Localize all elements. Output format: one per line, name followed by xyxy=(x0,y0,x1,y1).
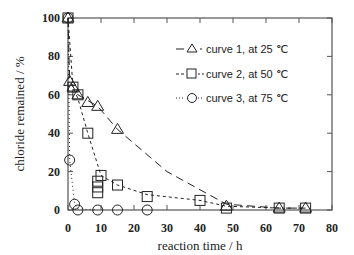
triangle-marker-icon xyxy=(187,44,197,52)
square-marker xyxy=(83,128,93,138)
square-marker xyxy=(93,182,103,192)
circle-marker xyxy=(65,155,75,165)
legend-item-curve-3: curve 3, at 75 ℃ xyxy=(176,92,288,104)
y-tick-label: 20 xyxy=(48,165,60,179)
series-3 xyxy=(63,13,152,215)
legend-item-curve-2: curve 2, at 50 ℃ xyxy=(176,68,288,80)
x-tick-labels: 01020304050607080 xyxy=(65,221,338,235)
y-tick-label: 80 xyxy=(48,49,60,63)
y-tick-label: 60 xyxy=(48,88,60,102)
y-tick-label: 40 xyxy=(48,126,60,140)
y-tick-label: 0 xyxy=(54,203,60,217)
legend-item-curve-1: curve 1, at 25 ℃ xyxy=(176,43,288,55)
legend-label-curve-2: curve 2, at 50 ℃ xyxy=(206,68,288,80)
square-marker xyxy=(142,192,152,202)
square-marker xyxy=(93,188,103,198)
x-tick-label: 60 xyxy=(260,221,272,235)
axis-ticks xyxy=(68,18,332,210)
x-tick-label: 40 xyxy=(194,221,206,235)
circle-marker xyxy=(70,199,80,209)
y-tick-label: 100 xyxy=(42,11,60,25)
chart: 01020304050607080 020406080100 reaction … xyxy=(0,0,354,255)
plot-frame xyxy=(68,18,332,210)
square-marker xyxy=(93,176,103,186)
x-tick-label: 30 xyxy=(161,221,173,235)
x-tick-label: 0 xyxy=(65,221,71,235)
x-tick-label: 80 xyxy=(326,221,338,235)
circle-marker-icon xyxy=(188,94,197,103)
x-tick-label: 10 xyxy=(95,221,107,235)
legend-label-curve-1: curve 1, at 25 ℃ xyxy=(206,43,288,55)
square-marker-icon xyxy=(187,69,196,78)
legend: curve 1, at 25 ℃ curve 2, at 50 ℃ curve … xyxy=(176,43,288,104)
x-axis-label: reaction time / h xyxy=(158,238,243,253)
legend-label-curve-3: curve 3, at 75 ℃ xyxy=(206,92,288,104)
triangle-marker xyxy=(112,123,124,133)
x-tick-label: 70 xyxy=(293,221,305,235)
x-tick-label: 20 xyxy=(128,221,140,235)
y-tick-labels: 020406080100 xyxy=(42,11,60,217)
x-tick-label: 50 xyxy=(227,221,239,235)
y-axis-label: chloride remained / % xyxy=(12,56,27,171)
